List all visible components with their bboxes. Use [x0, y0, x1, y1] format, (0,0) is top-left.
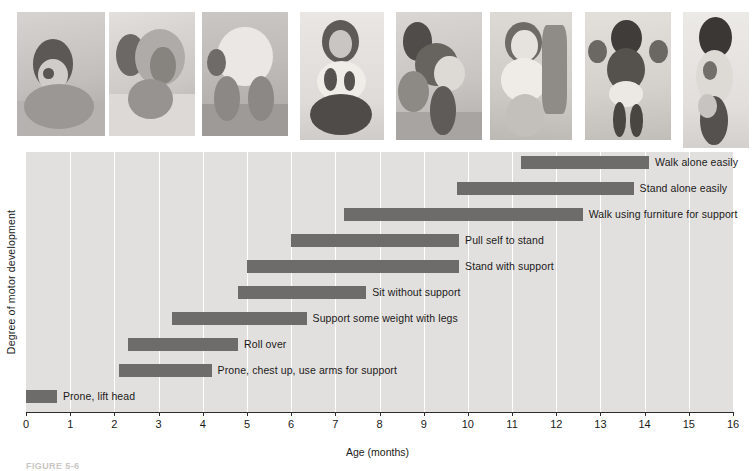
x-axis-tick: [291, 412, 292, 416]
x-axis-tick-label: 3: [156, 418, 162, 430]
x-axis-tick-label: 0: [23, 418, 29, 430]
infant-pull-to-stand-photo: [396, 12, 482, 140]
infant-walking-with-help-photo: [585, 12, 671, 140]
infant-crawling-photo: [202, 12, 288, 136]
x-axis-tick-label: 7: [332, 418, 338, 430]
x-axis-tick-label: 6: [288, 418, 294, 430]
milestone-bar-label: Roll over: [244, 338, 286, 350]
milestone-bar-row: Walk alone easily: [26, 156, 733, 169]
x-axis-tick-label: 14: [639, 418, 651, 430]
x-axis: 012345678910111213141516: [0, 412, 755, 446]
chart-plot-area: Walk alone easilyStand alone easilyWalk …: [26, 152, 733, 412]
milestone-bar: [128, 338, 238, 351]
milestone-bar-label: Prone, chest up, use arms for support: [218, 364, 397, 376]
milestone-bar: [291, 234, 459, 247]
infant-sitting-photo: [300, 12, 384, 140]
x-axis-tick-label: 12: [550, 418, 562, 430]
x-axis-tick-label: 13: [594, 418, 606, 430]
x-axis-tick: [424, 412, 425, 416]
milestone-bar-row: Stand with support: [26, 260, 733, 273]
milestone-bar: [26, 390, 57, 403]
milestone-bar-row: Prone, lift head: [26, 390, 733, 403]
milestone-bar-label: Walk using furniture for support: [589, 208, 738, 220]
milestone-bar-label: Support some weight with legs: [313, 312, 458, 324]
milestone-bar-row: Walk using furniture for support: [26, 208, 733, 221]
toddler-walking-alone-photo: [683, 12, 749, 148]
milestone-bar-label: Walk alone easily: [655, 156, 738, 168]
x-axis-tick: [335, 412, 336, 416]
x-axis-tick: [556, 412, 557, 416]
gridline: [733, 152, 734, 412]
x-axis-tick: [689, 412, 690, 416]
milestone-bar-row: Support some weight with legs: [26, 312, 733, 325]
photo-strip: [0, 0, 755, 146]
milestone-bar-label: Prone, lift head: [63, 390, 135, 402]
milestone-bar-row: Prone, chest up, use arms for support: [26, 364, 733, 377]
milestone-bar: [344, 208, 583, 221]
milestone-bar-label: Sit without support: [372, 286, 460, 298]
milestone-bar-row: Sit without support: [26, 286, 733, 299]
milestone-bar-label: Pull self to stand: [465, 234, 544, 246]
x-axis-tick: [380, 412, 381, 416]
milestone-bar-label: Stand with support: [465, 260, 554, 272]
milestone-bar: [119, 364, 212, 377]
x-axis-tick: [114, 412, 115, 416]
milestone-bar: [521, 156, 649, 169]
x-axis-tick: [645, 412, 646, 416]
x-axis-tick-label: 1: [67, 418, 73, 430]
x-axis-title: Age (months): [0, 446, 755, 458]
x-axis-tick: [512, 412, 513, 416]
milestone-bar-row: Stand alone easily: [26, 182, 733, 195]
milestone-bar: [457, 182, 634, 195]
x-axis-tick: [203, 412, 204, 416]
x-axis-tick-label: 4: [200, 418, 206, 430]
x-axis-tick-label: 15: [683, 418, 695, 430]
figure-caption: FIGURE 5-6: [26, 461, 80, 471]
infant-rolling-over-photo: [109, 12, 195, 136]
x-axis-tick-label: 8: [376, 418, 382, 430]
milestone-bar: [238, 286, 366, 299]
x-axis-tick: [247, 412, 248, 416]
x-axis-tick-label: 9: [421, 418, 427, 430]
milestone-bar-row: Roll over: [26, 338, 733, 351]
x-axis-tick: [733, 412, 734, 416]
x-axis-tick: [468, 412, 469, 416]
x-axis-tick: [600, 412, 601, 416]
x-axis-tick-label: 5: [244, 418, 250, 430]
x-axis-tick-label: 11: [506, 418, 517, 430]
infant-prone-lift-head-photo: [17, 12, 105, 136]
x-axis-tick-label: 2: [111, 418, 117, 430]
milestone-bar: [247, 260, 459, 273]
x-axis-tick: [70, 412, 71, 416]
x-axis-tick-label: 16: [727, 418, 739, 430]
y-axis-title-text: Degree of motor development: [5, 210, 17, 354]
x-axis-tick: [26, 412, 27, 416]
milestone-bar-label: Stand alone easily: [640, 182, 728, 194]
x-axis-tick: [159, 412, 160, 416]
milestone-bar-row: Pull self to stand: [26, 234, 733, 247]
x-axis-tick-label: 10: [462, 418, 474, 430]
infant-cruising-furniture-photo: [490, 12, 572, 140]
milestone-bar: [172, 312, 307, 325]
y-axis-title: Degree of motor development: [2, 152, 20, 412]
